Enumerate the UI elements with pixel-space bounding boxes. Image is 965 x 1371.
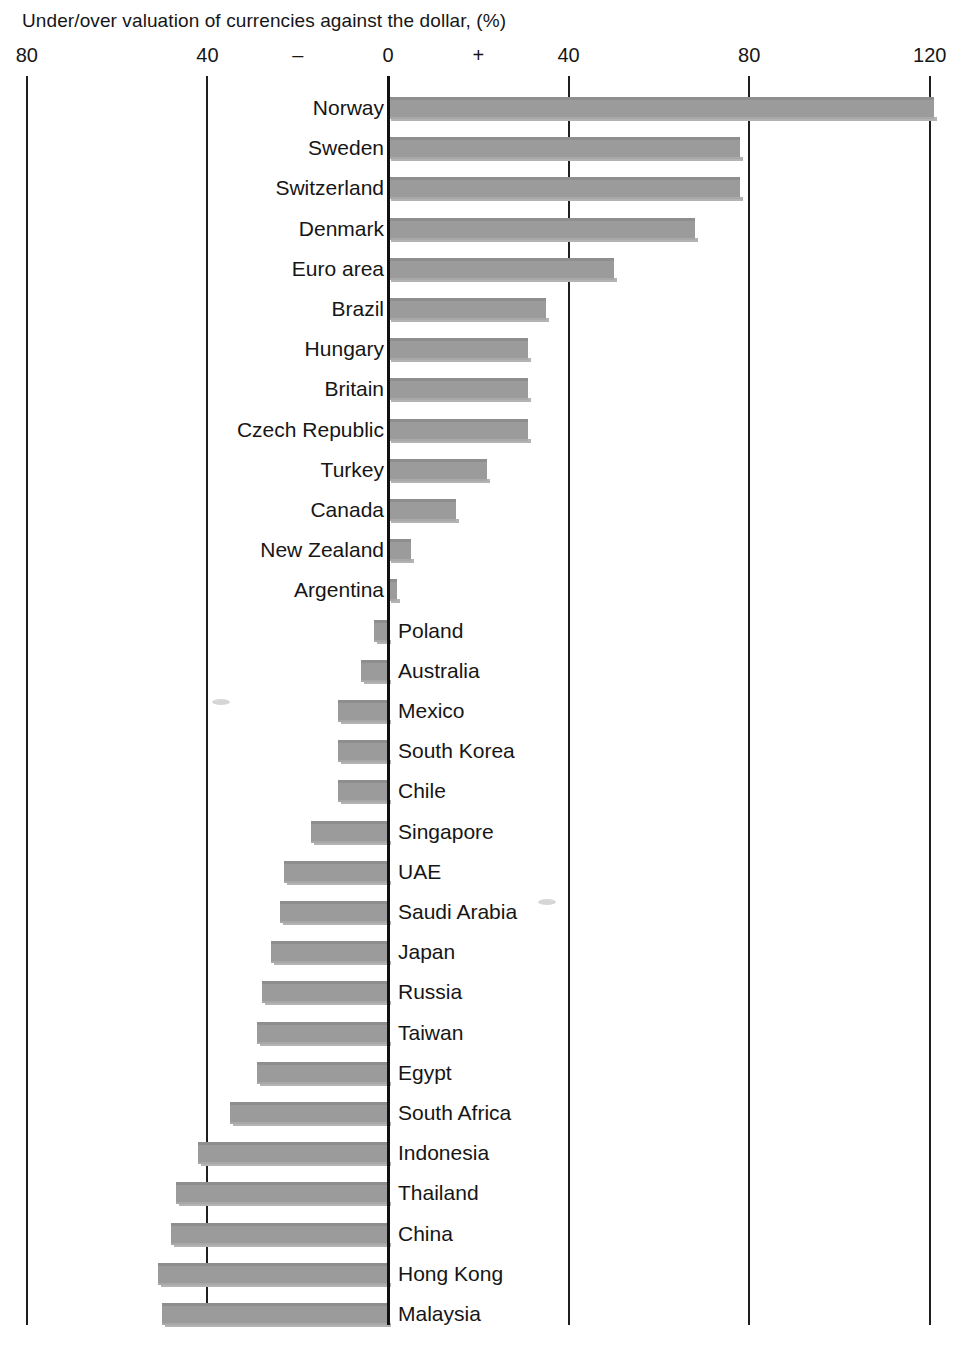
bar <box>284 861 388 883</box>
bar-row: Hungary <box>0 333 965 373</box>
bar <box>311 821 388 843</box>
bar <box>388 218 695 240</box>
bar-label: Japan <box>398 938 455 966</box>
bar <box>388 459 487 481</box>
plot-area: 8040–0+4080120 NorwaySwedenSwitzerlandDe… <box>0 44 965 1344</box>
bar-row: Saudi Arabia <box>0 896 965 936</box>
bar-label: UAE <box>398 858 441 886</box>
bar-label: Switzerland <box>275 174 384 202</box>
bar-label: Denmark <box>299 215 384 243</box>
bar <box>388 137 740 159</box>
bar <box>388 419 528 441</box>
bar-row: South Africa <box>0 1097 965 1137</box>
bar-label: Poland <box>398 617 463 645</box>
bar-label: Singapore <box>398 818 494 846</box>
bar <box>388 378 528 400</box>
bar-label: New Zealand <box>260 536 384 564</box>
scan-artifact <box>212 699 230 705</box>
bar-label: Indonesia <box>398 1139 489 1167</box>
bar-row: Britain <box>0 373 965 413</box>
bar-row: Egypt <box>0 1057 965 1097</box>
bar <box>388 298 546 320</box>
bar-label: Turkey <box>321 456 384 484</box>
x-tick-0-pos: 0 <box>382 44 393 67</box>
bar-row: Singapore <box>0 816 965 856</box>
bar-label: Thailand <box>398 1179 479 1207</box>
bar-row: Switzerland <box>0 172 965 212</box>
bar-label: Hong Kong <box>398 1260 503 1288</box>
x-tick-80-neg: 80 <box>16 44 38 67</box>
x-tick-120-pos: 120 <box>913 44 946 67</box>
bar <box>338 740 388 762</box>
bar-label: Euro area <box>292 255 384 283</box>
bar <box>374 620 388 642</box>
bar-label: Argentina <box>294 576 384 604</box>
bar <box>388 97 934 119</box>
bar <box>176 1182 388 1204</box>
bar-row: Brazil <box>0 293 965 333</box>
bar <box>198 1142 388 1164</box>
bar <box>388 539 411 561</box>
bar-label: China <box>398 1220 453 1248</box>
bar-label: Egypt <box>398 1059 452 1087</box>
bar <box>171 1223 388 1245</box>
bar-row: Norway <box>0 92 965 132</box>
bar-label: Chile <box>398 777 446 805</box>
bar-row: Japan <box>0 936 965 976</box>
bar <box>262 981 388 1003</box>
bar <box>280 901 388 923</box>
bar-label: Russia <box>398 978 462 1006</box>
bar-label: Canada <box>310 496 384 524</box>
bar-row: UAE <box>0 856 965 896</box>
bar-label: Taiwan <box>398 1019 463 1047</box>
bar <box>158 1263 388 1285</box>
x-tick-minus: – <box>292 44 303 67</box>
bar-row: Russia <box>0 976 965 1016</box>
bar-row: South Korea <box>0 735 965 775</box>
valuation-bar-chart: Under/over valuation of currencies again… <box>0 0 965 1371</box>
x-tick-80-pos: 80 <box>738 44 760 67</box>
x-tick-40-neg: 40 <box>196 44 218 67</box>
bar-label: Malaysia <box>398 1300 481 1328</box>
bar-row: Sweden <box>0 132 965 172</box>
bar-row: Czech Republic <box>0 414 965 454</box>
bar <box>388 258 614 280</box>
bar-row: Thailand <box>0 1177 965 1217</box>
bar <box>257 1022 388 1044</box>
bar-row: Malaysia <box>0 1298 965 1338</box>
zero-axis-line <box>387 76 390 1325</box>
bar-row: Argentina <box>0 574 965 614</box>
bar <box>230 1102 388 1124</box>
bar-label: Brazil <box>331 295 384 323</box>
bar-label: Norway <box>313 94 384 122</box>
bar-label: Mexico <box>398 697 465 725</box>
bar-label: Britain <box>324 375 384 403</box>
bar-label: Sweden <box>308 134 384 162</box>
bar-row: Euro area <box>0 253 965 293</box>
bar-row: Taiwan <box>0 1017 965 1057</box>
bar <box>388 499 456 521</box>
bar-label: South Korea <box>398 737 515 765</box>
bar <box>361 660 388 682</box>
bar <box>338 780 388 802</box>
bar <box>338 700 388 722</box>
bar-row: Mexico <box>0 695 965 735</box>
bar <box>162 1303 388 1325</box>
bar-label: Saudi Arabia <box>398 898 517 926</box>
bar-label: South Africa <box>398 1099 511 1127</box>
bar-row: Canada <box>0 494 965 534</box>
bar-row: Hong Kong <box>0 1258 965 1298</box>
bar-row: New Zealand <box>0 534 965 574</box>
bar-row: China <box>0 1218 965 1258</box>
bar-row: Turkey <box>0 454 965 494</box>
bar-row: Indonesia <box>0 1137 965 1177</box>
bar-row: Australia <box>0 655 965 695</box>
bar-row: Chile <box>0 775 965 815</box>
bar <box>271 941 388 963</box>
bar <box>257 1062 388 1084</box>
bar-row: Poland <box>0 615 965 655</box>
bar-label: Australia <box>398 657 480 685</box>
x-tick-plus: + <box>472 44 484 67</box>
bar-label: Hungary <box>305 335 384 363</box>
bar-label: Czech Republic <box>237 416 384 444</box>
